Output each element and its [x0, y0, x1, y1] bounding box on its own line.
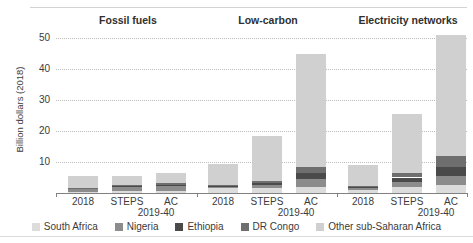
- legend-swatch-icon: [32, 223, 40, 231]
- bar-segment-south-africa: [252, 188, 282, 193]
- x-label-2018: 2018: [201, 196, 245, 207]
- bar-segment-other-sub-saharan-africa: [348, 165, 378, 186]
- bar-segment-ethiopia: [112, 186, 142, 188]
- chart-root: Billion dollars (2018) 1020304050 Fossil…: [0, 0, 473, 243]
- bar-segment-ethiopia: [68, 188, 98, 189]
- legend-label: Other sub-Saharan Africa: [328, 221, 441, 232]
- x-label-steps: STEPS: [245, 196, 289, 207]
- bar-segment-other-sub-saharan-africa: [296, 54, 326, 167]
- x-label-ac: AC: [149, 196, 193, 207]
- bar-segment-south-africa: [392, 187, 422, 193]
- bar-segment-ethiopia: [156, 185, 186, 187]
- legend-item-south-africa[interactable]: South Africa: [32, 221, 98, 232]
- y-axis-title: Billion dollars (2018): [14, 35, 25, 185]
- y-tick-label: 20: [24, 126, 50, 136]
- legend-label: Nigeria: [127, 221, 159, 232]
- bar-segment-dr-congo: [252, 181, 282, 183]
- bar-segment-dr-congo: [156, 183, 186, 185]
- legend-label: South Africa: [44, 221, 98, 232]
- bar-fossil-fuels-steps-2019-40: [112, 0, 142, 193]
- bar-segment-other-sub-saharan-africa: [156, 173, 186, 183]
- bar-fossil-fuels-ac-2019-40: [156, 0, 186, 193]
- y-tick-label: 40: [24, 64, 50, 74]
- bar-fossil-fuels-2018: [68, 0, 98, 193]
- bar-segment-nigeria: [348, 188, 378, 190]
- bar-segment-ethiopia: [208, 186, 238, 187]
- bar-segment-other-sub-saharan-africa: [436, 35, 466, 156]
- bar-segment-dr-congo: [208, 185, 238, 186]
- bar-electricity-networks-ac-2019-40: [436, 0, 466, 193]
- x-axis-line: [56, 193, 467, 194]
- y-tick-label: 30: [24, 95, 50, 105]
- bar-segment-dr-congo: [296, 167, 326, 173]
- legend-label: Ethiopia: [187, 221, 223, 232]
- bar-segment-south-africa: [156, 191, 186, 193]
- axis-tick: [56, 193, 57, 197]
- bar-segment-nigeria: [208, 186, 238, 188]
- bar-segment-ethiopia: [436, 167, 466, 176]
- bar-segment-nigeria: [296, 179, 326, 187]
- bar-segment-ethiopia: [296, 173, 326, 179]
- legend-item-nigeria[interactable]: Nigeria: [115, 221, 159, 232]
- x-sublabel-period: 2019-40: [245, 207, 347, 218]
- x-label-steps: STEPS: [385, 196, 429, 207]
- legend-swatch-icon: [241, 223, 249, 231]
- legend-item-other-sub-saharan-africa[interactable]: Other sub-Saharan Africa: [316, 221, 441, 232]
- x-sublabel-period: 2019-40: [105, 207, 207, 218]
- bar-segment-nigeria: [156, 186, 186, 191]
- legend-swatch-icon: [316, 223, 324, 231]
- bar-segment-south-africa: [112, 191, 142, 193]
- bar-segment-south-africa: [68, 192, 98, 193]
- bar-low-carbon-2018: [208, 0, 238, 193]
- bar-segment-other-sub-saharan-africa: [68, 176, 98, 188]
- bar-low-carbon-ac-2019-40: [296, 0, 326, 193]
- bar-low-carbon-steps-2019-40: [252, 0, 282, 193]
- bar-segment-nigeria: [68, 189, 98, 191]
- y-tick-label: 10: [24, 157, 50, 167]
- bar-segment-nigeria: [252, 185, 282, 188]
- legend-label: DR Congo: [253, 221, 300, 232]
- axis-tick: [197, 193, 198, 197]
- y-tick-label: 50: [24, 33, 50, 43]
- bar-segment-dr-congo: [436, 156, 466, 167]
- bottom-divider: [0, 236, 473, 237]
- bar-segment-other-sub-saharan-africa: [208, 164, 238, 185]
- x-label-steps: STEPS: [105, 196, 149, 207]
- legend-item-dr-congo[interactable]: DR Congo: [241, 221, 300, 232]
- bar-electricity-networks-2018: [348, 0, 378, 193]
- legend-swatch-icon: [175, 223, 183, 231]
- x-label-ac: AC: [429, 196, 473, 207]
- legend-swatch-icon: [115, 223, 123, 231]
- axis-tick: [337, 193, 338, 197]
- bar-segment-south-africa: [436, 185, 466, 193]
- x-label-2018: 2018: [61, 196, 105, 207]
- bar-segment-other-sub-saharan-africa: [112, 176, 142, 185]
- chart-legend: South AfricaNigeriaEthiopiaDR CongoOther…: [0, 221, 473, 232]
- bar-segment-ethiopia: [392, 178, 422, 183]
- bar-electricity-networks-steps-2019-40: [392, 0, 422, 193]
- legend-item-ethiopia[interactable]: Ethiopia: [175, 221, 223, 232]
- bar-segment-ethiopia: [252, 183, 282, 185]
- x-sublabel-period: 2019-40: [385, 207, 473, 218]
- bar-segment-nigeria: [112, 187, 142, 191]
- bar-segment-south-africa: [348, 190, 378, 193]
- bar-segment-ethiopia: [348, 187, 378, 188]
- bar-segment-dr-congo: [348, 186, 378, 187]
- bar-segment-nigeria: [436, 176, 466, 185]
- x-label-2018: 2018: [341, 196, 385, 207]
- bar-segment-dr-congo: [68, 188, 98, 189]
- bar-segment-south-africa: [296, 187, 326, 193]
- bar-segment-dr-congo: [392, 173, 422, 178]
- bar-segment-dr-congo: [112, 185, 142, 186]
- bar-segment-other-sub-saharan-africa: [252, 136, 282, 181]
- bar-segment-nigeria: [392, 182, 422, 187]
- bar-segment-other-sub-saharan-africa: [392, 114, 422, 173]
- bar-segment-south-africa: [208, 188, 238, 193]
- x-label-ac: AC: [289, 196, 333, 207]
